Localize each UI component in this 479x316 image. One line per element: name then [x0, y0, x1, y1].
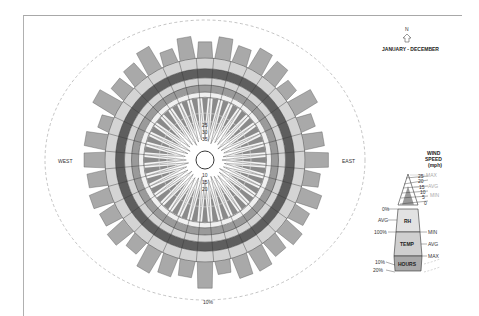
south-pct-label: 10%	[203, 299, 214, 305]
wind-scale-top: 253035	[202, 122, 208, 142]
period-title: JANUARY - DECEMBER	[382, 46, 439, 52]
north-label: N	[405, 26, 409, 32]
legend-temp-min: MIN	[428, 229, 438, 235]
legend-wind-avg-label: AVG	[428, 183, 438, 189]
legend-temp-avg: AVG	[428, 241, 438, 247]
wind-scale-label: 15	[202, 179, 208, 185]
center-circle	[196, 151, 214, 169]
east-label: EAST	[342, 158, 355, 164]
legend-hours-label: HOURS	[398, 261, 417, 267]
legend-rh-avg: AVG	[378, 217, 388, 223]
legend-wind-max: MAX	[426, 172, 438, 178]
wind-rose-diagram: WEST EAST 10% 253035 101520 N JANUARY - …	[0, 0, 479, 316]
legend-header-3: (mph)	[428, 162, 442, 168]
legend: WIND SPEED (mph) 25 20 15 10 5 0 MAX AVG…	[373, 150, 442, 273]
legend-hours-20: 20%	[373, 267, 384, 273]
legend-temp-label: TEMP	[400, 241, 415, 247]
legend-wind-0: 0	[424, 200, 427, 206]
wind-scale-label: 10	[202, 172, 208, 178]
west-label: WEST	[58, 158, 72, 164]
wind-scale-label: 20	[202, 186, 208, 192]
wind-scale-bottom: 101520	[202, 172, 208, 192]
wind-scale-label: 35	[202, 136, 208, 142]
wind-scale-label: 25	[202, 122, 208, 128]
legend-rh-label: RH	[404, 218, 412, 224]
legend-rh-100: 100%	[374, 229, 387, 235]
wind-scale-label: 30	[202, 129, 208, 135]
legend-temp-max: MAX	[428, 253, 440, 259]
north-arrow-icon	[403, 34, 411, 42]
legend-rh-0: 0%	[382, 206, 390, 212]
legend-wind-min: MIN	[430, 192, 440, 198]
legend-hours-10: 10%	[375, 259, 386, 265]
